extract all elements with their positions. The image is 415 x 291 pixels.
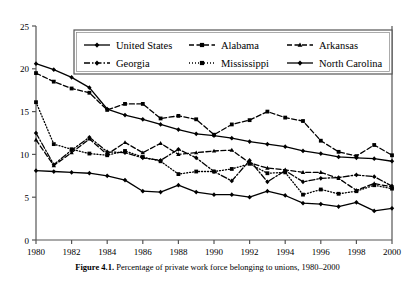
data-point-marker <box>319 151 323 156</box>
x-tick-label: 1998 <box>347 247 366 257</box>
data-point-marker <box>355 189 359 193</box>
data-point-marker <box>141 155 145 159</box>
data-point-marker <box>319 176 323 181</box>
data-point-marker <box>390 187 394 191</box>
legend-label: Alabama <box>221 40 259 51</box>
series-line <box>36 139 392 190</box>
x-tick-label: 1982 <box>63 247 81 257</box>
data-point-marker <box>230 136 234 141</box>
data-point-marker <box>372 174 376 179</box>
x-tick-label: 1988 <box>169 247 188 257</box>
data-point-marker <box>52 169 56 174</box>
y-tick-label: 5 <box>25 193 30 203</box>
series-united-states <box>34 168 394 213</box>
legend-label: North Carolina <box>319 58 383 69</box>
data-point-marker <box>34 100 38 104</box>
data-point-marker <box>194 190 198 195</box>
x-axis: 1980198219841986198819901992199419961998… <box>27 240 402 257</box>
legend-label: Georgia <box>116 58 150 69</box>
series-alabama <box>34 71 394 158</box>
data-point-marker <box>372 156 376 161</box>
data-point-marker <box>69 75 73 80</box>
y-tick-label: 0 <box>25 236 30 246</box>
series-mississippi <box>34 100 394 196</box>
data-point-marker <box>248 118 252 122</box>
data-point-marker <box>159 117 163 121</box>
data-point-marker <box>88 152 92 156</box>
x-tick-label: 1980 <box>27 247 46 257</box>
data-point-marker <box>123 140 127 144</box>
data-point-marker <box>105 173 109 178</box>
data-point-marker <box>283 116 287 120</box>
data-point-marker <box>200 43 204 47</box>
data-point-marker <box>265 142 269 147</box>
data-point-marker <box>212 192 216 197</box>
data-point-marker <box>177 172 181 176</box>
data-point-marker <box>319 170 323 174</box>
data-point-marker <box>390 206 394 211</box>
data-point-marker <box>141 117 145 122</box>
data-point-marker <box>70 147 74 151</box>
legend-label: Mississippi <box>221 58 269 69</box>
data-point-marker <box>354 173 358 178</box>
data-point-marker <box>336 204 340 209</box>
data-point-marker <box>230 167 234 171</box>
data-point-marker <box>52 142 56 146</box>
data-point-marker <box>158 190 162 195</box>
data-point-marker <box>212 170 216 174</box>
data-point-marker <box>319 188 323 192</box>
data-point-marker <box>301 149 305 154</box>
data-point-marker <box>88 91 92 95</box>
x-tick-label: 1986 <box>134 247 153 257</box>
data-point-marker <box>34 168 38 173</box>
legend-label: Arkansas <box>319 40 358 51</box>
data-point-marker <box>265 189 269 194</box>
data-point-marker <box>70 87 74 91</box>
data-point-marker <box>247 139 251 144</box>
chart-legend: United StatesAlabamaArkansasGeorgiaMissi… <box>74 30 392 74</box>
y-tick-label: 25 <box>20 22 30 32</box>
data-point-marker <box>34 138 38 142</box>
data-point-marker <box>319 139 323 143</box>
y-tick-label: 10 <box>20 150 30 160</box>
data-point-marker <box>194 131 198 136</box>
data-point-marker <box>372 209 376 214</box>
data-point-marker <box>176 183 180 188</box>
data-point-marker <box>266 171 270 175</box>
data-point-marker <box>301 201 305 206</box>
data-point-marker <box>372 183 376 187</box>
series-arkansas <box>34 137 394 192</box>
data-point-marker <box>176 127 180 132</box>
data-point-marker <box>159 159 163 163</box>
series-line <box>36 102 392 194</box>
x-tick-label: 2000 <box>383 247 402 257</box>
data-point-marker <box>301 193 305 197</box>
data-point-marker <box>34 71 38 75</box>
data-point-marker <box>283 193 287 198</box>
data-point-marker <box>266 110 270 114</box>
data-point-marker <box>69 170 73 175</box>
data-point-marker <box>354 200 358 205</box>
series-north-carolina <box>34 61 394 163</box>
x-tick-label: 1996 <box>312 247 331 257</box>
data-point-marker <box>390 159 394 164</box>
union-membership-line-chart: 0510152025 19801982198419861988199019921… <box>0 0 415 262</box>
data-point-marker <box>301 119 305 123</box>
figure-container: 0510152025 19801982198419861988199019921… <box>0 0 415 291</box>
x-tick-label: 1994 <box>276 247 295 257</box>
data-point-marker <box>230 123 234 127</box>
data-point-marker <box>336 155 340 160</box>
data-point-marker <box>105 153 109 157</box>
data-point-marker <box>177 114 181 118</box>
data-point-marker <box>248 162 252 166</box>
x-tick-label: 1990 <box>205 247 224 257</box>
y-tick-label: 15 <box>20 107 30 117</box>
data-point-marker <box>194 170 198 174</box>
data-point-marker <box>141 102 145 106</box>
legend-label: United States <box>116 40 172 51</box>
data-point-marker <box>158 141 162 145</box>
data-point-marker <box>390 153 394 157</box>
data-point-marker <box>34 61 38 66</box>
data-point-marker <box>158 122 162 127</box>
data-point-marker <box>123 113 127 118</box>
